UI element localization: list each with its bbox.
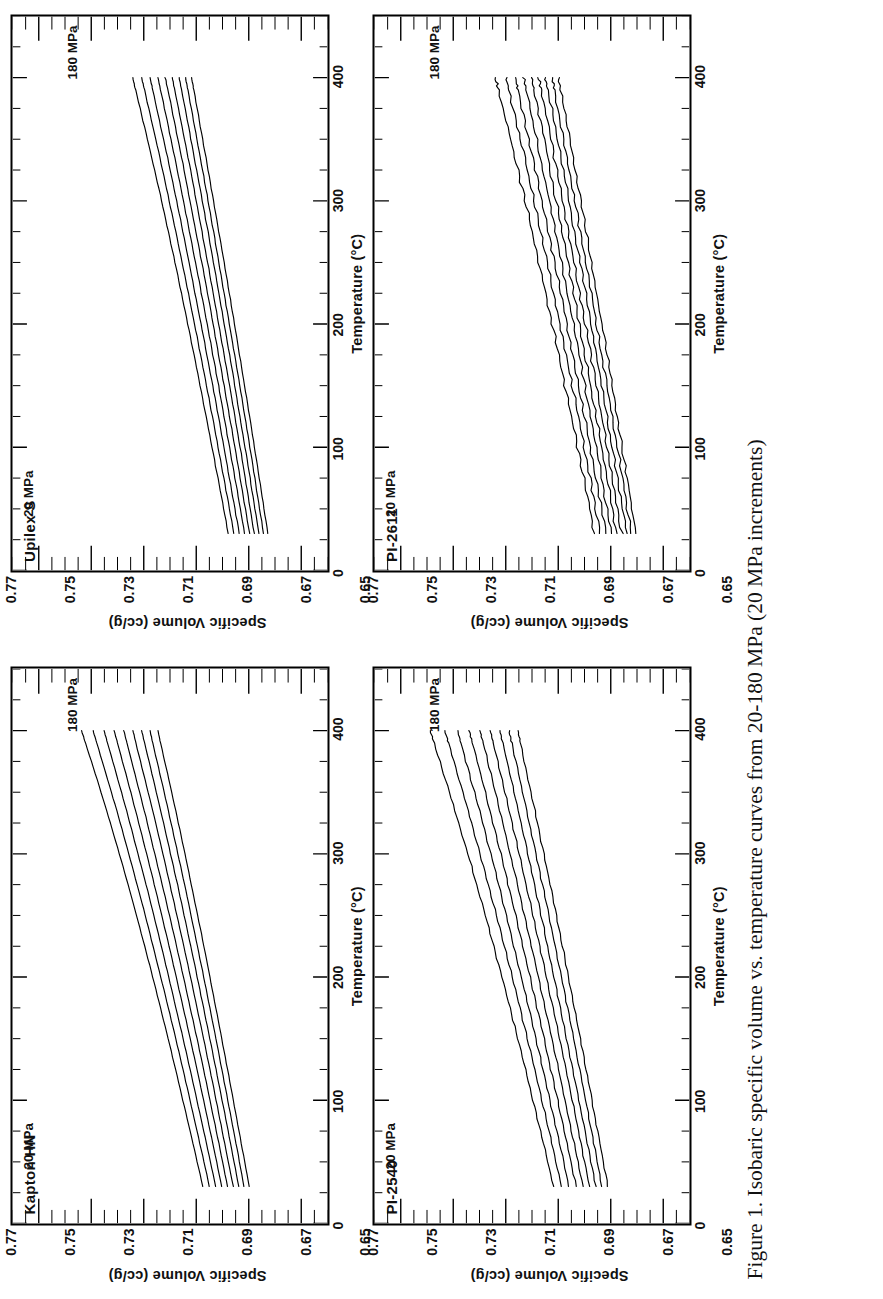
isobar-curve [114,730,222,1186]
y-tick-label: 0.71 [541,576,557,603]
panel-upilex-s: Specific Volume (cc/g) 0.650.670.690.710… [10,14,364,633]
curves-upilex-s [12,16,327,571]
isobar-curve [495,78,594,534]
isobar-curve [500,730,596,1186]
x-tick-label: 200 [691,313,707,336]
annotation-180-mpa: 180 MPa [426,678,441,732]
x-axis-label: Temperature (°C) [710,667,726,1226]
x-tick-label: 100 [691,1089,707,1112]
x-tick-label: 100 [329,1089,345,1112]
x-axis-label: Temperature (°C) [348,14,364,573]
y-tick-label: 0.65 [718,1228,734,1255]
isobar-curve [132,78,227,534]
y-tick-label: 0.77 [2,576,18,603]
y-tick-label: 0.75 [423,576,439,603]
y-tick-label: 0.75 [61,1228,77,1255]
annotation-20-mpa: 20 MPa [382,1122,397,1169]
isobar-curve [141,78,233,534]
annotation-180-mpa: 180 MPa [64,25,79,79]
y-tick-label: 0.65 [718,576,734,603]
y-axis-label: Specific Volume (cc/g) [372,613,726,633]
x-tick-label: 300 [691,188,707,211]
y-tick-label: 0.67 [659,576,675,603]
curves-kapton-hn [12,669,327,1224]
y-tick-label: 0.69 [600,1228,616,1255]
y-tick-labels: 0.650.670.690.710.730.750.77 [372,1225,726,1265]
isobar-curve [158,730,249,1186]
y-tick-label: 0.77 [364,1228,380,1255]
x-tick-label: 400 [329,717,345,740]
panel-pi-2611: Specific Volume (cc/g) 0.650.670.690.710… [372,14,726,633]
x-axis-label: Temperature (°C) [710,14,726,573]
y-tick-label: 0.73 [482,576,498,603]
y-tick-label: 0.75 [423,1228,439,1255]
isobar-curve [518,730,607,1186]
x-tick-label: 100 [329,437,345,460]
panel-grid: Specific Volume (cc/g) 0.650.670.690.710… [10,14,726,1285]
curves-pi-2540 [374,669,689,1224]
x-tick-label: 0 [691,1221,707,1229]
panel-pi-2540: Specific Volume (cc/g) 0.650.670.690.710… [372,667,726,1286]
x-tick-label: 300 [329,188,345,211]
panel-kapton-hn: Specific Volume (cc/g) 0.650.670.690.710… [10,667,364,1286]
isobar-curve [509,730,601,1186]
y-tick-label: 0.69 [600,576,616,603]
plot-area-pi-2540: PI-2540 20 MPa 180 MPa [372,667,691,1226]
y-tick-label: 0.67 [297,576,313,603]
y-tick-label: 0.71 [179,576,195,603]
isobar-curve [531,78,617,534]
y-tick-label: 0.67 [659,1228,675,1255]
isobar-curve [505,78,599,534]
x-tick-label: 0 [691,569,707,577]
y-tick-labels: 0.650.670.690.710.730.750.77 [10,1225,364,1265]
x-tick-labels: 0100200300400 [329,667,349,1226]
isobar-curve [444,730,560,1186]
y-axis-label: Specific Volume (cc/g) [10,1265,364,1285]
y-tick-labels: 0.650.670.690.710.730.750.77 [372,573,726,613]
x-tick-label: 400 [691,64,707,87]
x-tick-label: 400 [691,717,707,740]
isobar-curve [123,730,227,1186]
annotation-20-mpa: 20 MPa [20,470,35,517]
y-tick-label: 0.77 [2,1228,18,1255]
y-axis-label: Specific Volume (cc/g) [10,613,364,633]
annotation-180-mpa: 180 MPa [64,678,79,732]
figure-caption: Figure 1. Isobaric specific volume vs. t… [740,17,768,1279]
x-tick-label: 300 [329,841,345,864]
y-tick-label: 0.71 [179,1228,195,1255]
x-tick-label: 300 [691,841,707,864]
y-tick-label: 0.67 [297,1228,313,1255]
x-tick-label: 200 [329,965,345,988]
y-tick-label: 0.77 [364,576,380,603]
caption-line-2: MPa increments) [742,439,766,586]
isobar-curve [544,78,627,534]
plot-area-upilex-s: Upilex S 20 MPa 180 MPa [10,14,329,573]
y-tick-label: 0.71 [541,1228,557,1255]
isobar-curve [93,730,209,1186]
plot-area-pi-2611: PI-2611 20 MPa 180 MPa [372,14,691,573]
x-tick-label: 200 [691,965,707,988]
figure-sheet: Specific Volume (cc/g) 0.650.670.690.710… [0,0,883,1299]
x-tick-labels: 0100200300400 [691,14,711,573]
x-tick-label: 0 [329,569,345,577]
caption-line-1: Figure 1. Isobaric specific volume vs. t… [742,592,766,1279]
x-tick-label: 0 [329,1221,345,1229]
x-axis-label: Temperature (°C) [348,667,364,1226]
x-tick-labels: 0100200300400 [329,14,349,573]
y-axis-label: Specific Volume (cc/g) [372,1265,726,1285]
x-tick-labels: 0100200300400 [691,667,711,1226]
annotation-180-mpa: 180 MPa [426,25,441,79]
isobar-curve [479,730,582,1186]
y-tick-label: 0.69 [238,576,254,603]
y-tick-label: 0.73 [120,1228,136,1255]
plot-area-kapton-hn: Kapton HN 20 MPa 180 MPa [10,667,329,1226]
isobar-curve [490,730,590,1186]
curves-pi-2611 [374,16,689,571]
annotation-20-mpa: 20 MPa [20,1122,35,1169]
y-tick-label: 0.69 [238,1228,254,1255]
y-tick-label: 0.73 [482,1228,498,1255]
x-tick-label: 400 [329,64,345,87]
y-tick-label: 0.73 [120,576,136,603]
x-tick-label: 200 [329,313,345,336]
rotated-page: Specific Volume (cc/g) 0.650.670.690.710… [0,0,883,1299]
